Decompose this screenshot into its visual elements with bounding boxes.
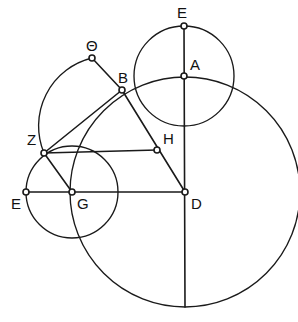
circles-group <box>26 26 298 307</box>
vertex-marker-a <box>181 73 187 79</box>
vertex-marker-b <box>119 87 125 93</box>
point-label-theta: Θ <box>86 38 98 53</box>
vertex-marker-g <box>69 189 75 195</box>
vertex-marker-d <box>182 189 188 195</box>
vertex-marker-z <box>41 150 47 156</box>
point-label-e-top: E <box>177 5 187 20</box>
segment-E-D <box>184 26 185 307</box>
point-label-b: B <box>118 70 128 85</box>
vertex-marker-h <box>154 147 160 153</box>
point-label-a: A <box>190 57 200 72</box>
point-label-d: D <box>191 196 202 211</box>
arcs-group <box>39 58 92 153</box>
segment-B-D <box>122 90 185 192</box>
point-label-h: H <box>163 131 174 146</box>
segment-Z-H <box>44 150 157 153</box>
vertex-marker-e-left <box>23 189 29 195</box>
geometry-canvas <box>0 0 298 322</box>
segment-Z-G <box>44 153 72 192</box>
point-label-z: Z <box>27 132 36 147</box>
vertex-marker-e-top <box>181 23 187 29</box>
geometry-figure: Θ E A B H Z E G D <box>0 0 298 322</box>
arc-theta-z <box>39 58 92 153</box>
vertex-marker-theta <box>89 55 95 61</box>
point-label-e-left: E <box>11 196 21 211</box>
segments-group <box>26 26 185 307</box>
segment-Z-B <box>44 90 122 153</box>
point-label-g: G <box>77 196 89 211</box>
